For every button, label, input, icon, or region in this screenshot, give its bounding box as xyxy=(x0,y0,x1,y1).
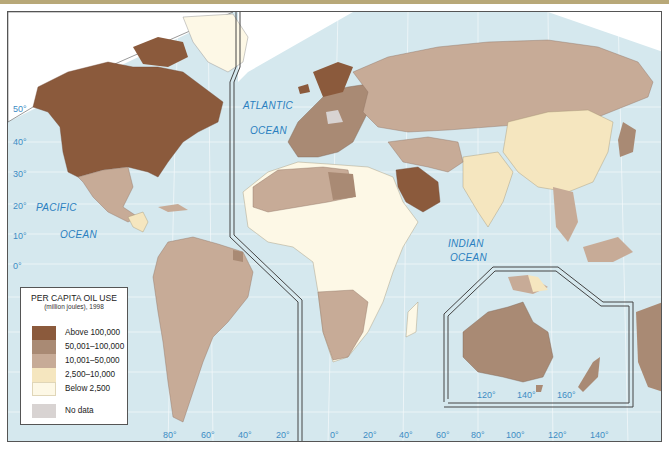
legend-swatch xyxy=(32,326,56,340)
inset-lon-label: 120° xyxy=(477,390,496,400)
region-madagascar xyxy=(406,302,418,337)
ocean-label-indian: INDIAN xyxy=(448,238,484,249)
ocean-label-atlantic-ocean: OCEAN xyxy=(250,125,287,136)
region-china xyxy=(503,110,613,192)
lat-label: 0° xyxy=(13,261,22,271)
region-greenland xyxy=(183,14,248,72)
lat-label: 50° xyxy=(13,104,27,114)
region-guyana xyxy=(233,250,243,262)
ocean-label-pacific-ocean: OCEAN xyxy=(60,229,97,240)
legend-subtitle: (million joules), 1998 xyxy=(21,303,127,310)
legend-title: PER CAPITA OIL USE xyxy=(21,293,127,303)
lat-label: 20° xyxy=(13,201,27,211)
region-russia xyxy=(353,40,653,132)
legend-swatch xyxy=(32,340,56,354)
lon-label: 40° xyxy=(399,430,413,440)
lon-label: 100° xyxy=(506,430,525,440)
region-mexico xyxy=(78,167,138,222)
ocean-label-pacific: PACIFIC xyxy=(36,202,77,213)
legend-item-50001-100000: 50,001–100,000 xyxy=(32,340,127,354)
lon-label: 80° xyxy=(163,430,177,440)
legend-swatch xyxy=(32,382,56,396)
legend-label: 50,001–100,000 xyxy=(65,342,124,351)
legend-item-below-2500: Below 2,500 xyxy=(32,382,127,396)
lon-label: 60° xyxy=(201,430,215,440)
region-south-america xyxy=(153,237,253,422)
legend-label: 10,001–50,000 xyxy=(65,356,120,365)
region-indonesia xyxy=(583,237,633,262)
lon-label: 40° xyxy=(238,430,252,440)
lat-label: 30° xyxy=(13,169,27,179)
legend-label: Below 2,500 xyxy=(65,384,110,393)
lon-label: 60° xyxy=(436,430,450,440)
map-legend: PER CAPITA OIL USE (million joules), 199… xyxy=(20,287,128,425)
legend-label: Above 100,000 xyxy=(65,328,120,337)
header-bar xyxy=(0,0,669,4)
region-usa-canada xyxy=(33,62,223,177)
legend-item-10001-50000: 10,001–50,000 xyxy=(32,354,127,368)
legend-swatch xyxy=(32,368,56,382)
lon-label: 80° xyxy=(471,430,485,440)
region-caribbean xyxy=(158,204,188,212)
legend-item-no-data: No data xyxy=(32,404,127,418)
region-australia-edge xyxy=(636,302,662,392)
legend-swatch xyxy=(32,404,56,418)
legend-label: No data xyxy=(65,406,94,415)
ocean-label-indian-ocean: OCEAN xyxy=(450,252,487,263)
lon-label: 120° xyxy=(548,430,567,440)
lon-label: 0° xyxy=(330,430,339,440)
region-southern-africa xyxy=(318,290,368,360)
lon-label: 20° xyxy=(276,430,290,440)
lat-label: 40° xyxy=(13,137,27,147)
legend-item-above-100000: Above 100,000 xyxy=(32,326,127,340)
lon-label: 140° xyxy=(590,430,609,440)
region-middle-east xyxy=(388,137,463,172)
lon-label: 20° xyxy=(363,430,377,440)
inset-lon-label: 160° xyxy=(557,390,576,400)
region-iceland xyxy=(298,84,310,94)
legend-item-2500-10000: 2,500–10,000 xyxy=(32,368,127,382)
legend-swatch xyxy=(32,354,56,368)
legend-label: 2,500–10,000 xyxy=(65,370,115,379)
region-india xyxy=(463,152,513,227)
inset-lon-label: 140° xyxy=(517,390,536,400)
ocean-label-atlantic: ATLANTIC xyxy=(243,100,293,111)
lat-label: 10° xyxy=(13,231,27,241)
